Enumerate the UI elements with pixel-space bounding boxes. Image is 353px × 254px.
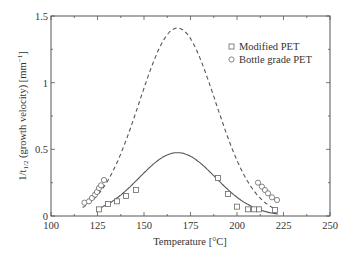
circle-marker [101, 177, 106, 182]
y-label-end: ] [17, 51, 28, 55]
square-marker [123, 194, 128, 199]
legend-circle-icon [229, 57, 234, 62]
y-label-rest: (growth velocity) [mm [17, 62, 29, 160]
x-tick-label: 150 [136, 220, 152, 231]
x-tick-label: 225 [276, 220, 292, 231]
circle-marker [274, 197, 279, 202]
x-tick-labels: 100125150175200225250 [43, 220, 338, 231]
circle-marker [265, 191, 270, 196]
square-marker [245, 207, 250, 212]
square-marker [134, 188, 139, 193]
square-marker [216, 176, 221, 181]
y-tick-label: 0.5 [35, 144, 48, 155]
legend-square-icon [229, 44, 234, 49]
square-marker [96, 207, 101, 212]
x-tick-label: 125 [90, 220, 106, 231]
square-marker [105, 202, 110, 207]
square-marker [235, 204, 240, 209]
circle-marker [269, 195, 274, 200]
legend-label: Modified PET [239, 41, 300, 52]
data-points [82, 176, 280, 213]
y-tick-label: 1.5 [35, 11, 48, 22]
circle-marker [255, 180, 260, 185]
y-tick-label: 0 [43, 211, 48, 222]
y-axis-label: 1/t1/2 (growth velocity) [mm−1] [16, 51, 30, 180]
circle-marker [98, 183, 103, 188]
y-label-main: 1/t [17, 169, 28, 180]
x-tick-label: 250 [322, 220, 338, 231]
square-marker [226, 192, 231, 197]
x-tick-label: 175 [183, 220, 199, 231]
modified-fit-curve [98, 153, 278, 214]
chart: 100125150175200225250 00.511.5 Modified … [0, 0, 353, 254]
y-tick-label: 1 [43, 78, 48, 89]
y-tick-labels: 00.511.5 [35, 11, 48, 222]
square-marker [251, 207, 256, 212]
legend: Modified PETBottle grade PET [229, 41, 313, 65]
x-axis-label: Temperature [°C] [153, 236, 227, 247]
x-tick-label: 200 [229, 220, 245, 231]
square-marker [115, 199, 120, 204]
square-marker [272, 208, 277, 213]
square-marker [256, 207, 261, 212]
legend-label: Bottle grade PET [239, 54, 312, 65]
